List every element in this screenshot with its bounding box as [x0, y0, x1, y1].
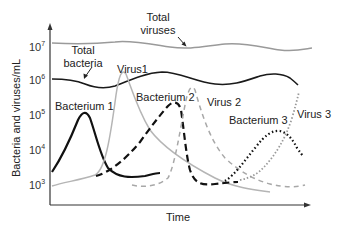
- y-tick-1e3: 103: [29, 178, 45, 191]
- x-axis-arrow-icon: [304, 203, 311, 208]
- y-tick-1e7: 107: [29, 40, 45, 53]
- series-bacterium-3: [225, 131, 303, 181]
- label-virus-3: Virus 3: [297, 108, 331, 120]
- label-bacterium-2: Bacterium 2: [136, 91, 195, 103]
- label-total-bacteria-line1: Total: [71, 44, 94, 56]
- annotations: Total viruses Total bacteria Virus1 Bact…: [55, 11, 331, 126]
- label-virus-2: Virus 2: [207, 96, 241, 108]
- x-axis-label: Time: [166, 211, 190, 223]
- label-bacterium-3: Bacterium 3: [229, 114, 288, 126]
- chart-svg: 107 106 105 104 103 Bacteria and viruses…: [0, 0, 343, 230]
- y-axis-label: Bacteria and viruses/mL: [10, 59, 22, 177]
- y-tick-1e4: 104: [29, 143, 45, 156]
- label-virus-1: Virus1: [117, 63, 148, 75]
- series-bacterium-2: [96, 103, 238, 185]
- series-virus-3: [240, 92, 299, 180]
- series-virus-1: [52, 72, 270, 192]
- y-tick-1e6: 106: [29, 73, 45, 86]
- label-total-viruses-line2: viruses: [141, 24, 176, 36]
- label-bacterium-1: Bacterium 1: [55, 100, 114, 112]
- label-total-viruses-line1: Total: [146, 11, 169, 23]
- chart: 107 106 105 104 103 Bacteria and viruses…: [0, 0, 343, 230]
- y-axis-arrow-icon: [48, 23, 53, 30]
- series-bacterium-1: [52, 113, 160, 177]
- y-tick-labels: 107 106 105 104 103: [29, 40, 45, 191]
- label-total-bacteria-line2: bacteria: [63, 57, 103, 69]
- y-tick-1e5: 105: [29, 108, 45, 121]
- series-total-bacteria: [52, 72, 298, 88]
